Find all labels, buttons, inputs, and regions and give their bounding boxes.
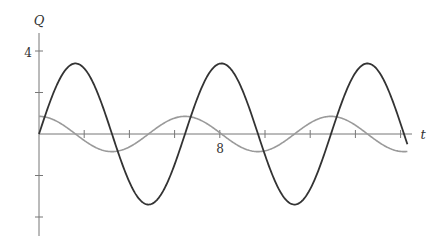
y-tick-label-4: 4 (24, 46, 32, 60)
x-tick-label-8: 8 (216, 142, 224, 156)
chart: Q t 4 8 (0, 0, 448, 239)
x-axis-label: t (420, 127, 426, 142)
y-axis-label: Q (34, 13, 45, 28)
chart-svg: Q t 4 8 (0, 0, 448, 239)
